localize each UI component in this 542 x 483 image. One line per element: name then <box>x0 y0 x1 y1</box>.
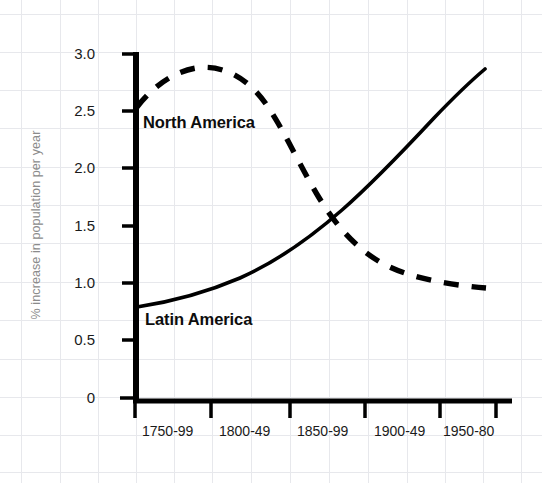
x-tick-label-1750-99: 1750-99 <box>142 424 193 438</box>
y-tick-label-0: 0 <box>55 390 95 405</box>
y-tick-label-1-0: 1.0 <box>55 275 95 290</box>
series-line-latin-america <box>137 69 485 307</box>
x-tick-label-1900-49: 1900-49 <box>374 424 425 438</box>
series-line-north-america <box>137 67 486 288</box>
series-label-north-america: North America <box>143 114 255 131</box>
y-tick-label-1-5: 1.5 <box>55 218 95 233</box>
x-axis-ticks <box>135 401 496 418</box>
y-tick-label-2-5: 2.5 <box>55 103 95 118</box>
x-tick-label-1850-99: 1850-99 <box>297 424 348 438</box>
series-label-latin-america: Latin America <box>145 311 252 328</box>
y-tick-label-3-0: 3.0 <box>55 46 95 61</box>
x-tick-label-1800-49: 1800-49 <box>219 424 270 438</box>
chart-figure: % increase in population per year 3.0 2.… <box>0 0 542 483</box>
y-tick-label-2-0: 2.0 <box>55 160 95 175</box>
plot-area <box>0 0 542 483</box>
y-axis-label: % increase in population per year <box>29 95 43 355</box>
y-tick-label-0-5: 0.5 <box>55 332 95 347</box>
x-tick-label-1950-80: 1950-80 <box>443 424 494 438</box>
